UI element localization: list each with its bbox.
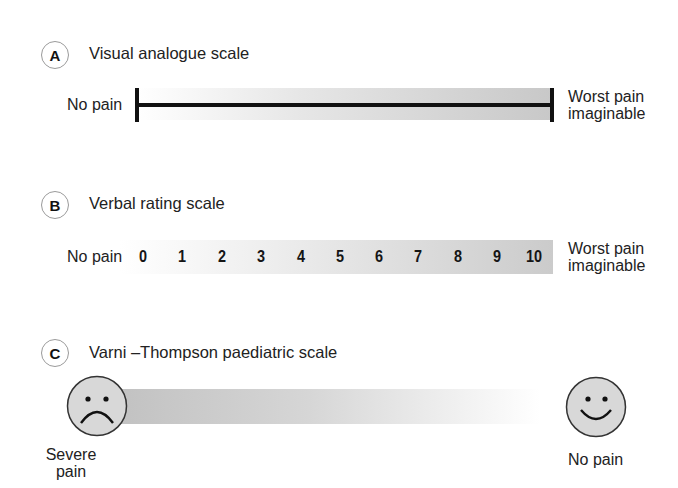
vt-right-label: No pain (568, 451, 623, 469)
vas-tick-right (550, 88, 554, 122)
vt-left-label-line2: pain (44, 463, 98, 480)
vas-tick-left (135, 88, 139, 122)
vrs-number-8: 8 (445, 247, 471, 267)
vrs-number-6: 6 (366, 247, 392, 267)
vrs-number-1: 1 (169, 247, 195, 267)
vt-left-label-line1: Severe (44, 446, 98, 463)
sad-face-icon (66, 375, 128, 437)
vrs-number-0: 0 (130, 247, 156, 267)
vrs-right-label-line2: imaginable (568, 257, 645, 274)
vas-line (137, 103, 552, 107)
vas-right-label-line1: Worst pain (568, 88, 645, 105)
vas-left-label: No pain (67, 96, 122, 114)
happy-face-icon (565, 376, 627, 438)
vrs-number-7: 7 (405, 247, 431, 267)
section-a-title: Visual analogue scale (89, 44, 249, 63)
vrs-number-2: 2 (209, 247, 235, 267)
vrs-number-3: 3 (248, 247, 274, 267)
vrs-number-10: 10 (521, 247, 547, 267)
vrs-right-label-line1: Worst pain (568, 240, 645, 257)
vrs-left-label: No pain (67, 248, 122, 266)
section-c-badge: C (41, 339, 69, 367)
vrs-right-label: Worst pain imaginable (568, 240, 645, 274)
vas-right-label: Worst pain imaginable (568, 88, 645, 122)
section-c-title: Varni –Thompson paediatric scale (89, 343, 337, 362)
section-b-title: Verbal rating scale (89, 194, 225, 213)
vrs-number-5: 5 (327, 247, 353, 267)
section-a-badge: A (41, 41, 69, 69)
vas-right-label-line2: imaginable (568, 105, 645, 122)
vt-left-label: Severe pain (44, 446, 98, 480)
vrs-number-4: 4 (288, 247, 314, 267)
section-b-badge: B (41, 191, 69, 219)
vt-gradient-bar (120, 389, 540, 424)
vrs-number-9: 9 (484, 247, 510, 267)
